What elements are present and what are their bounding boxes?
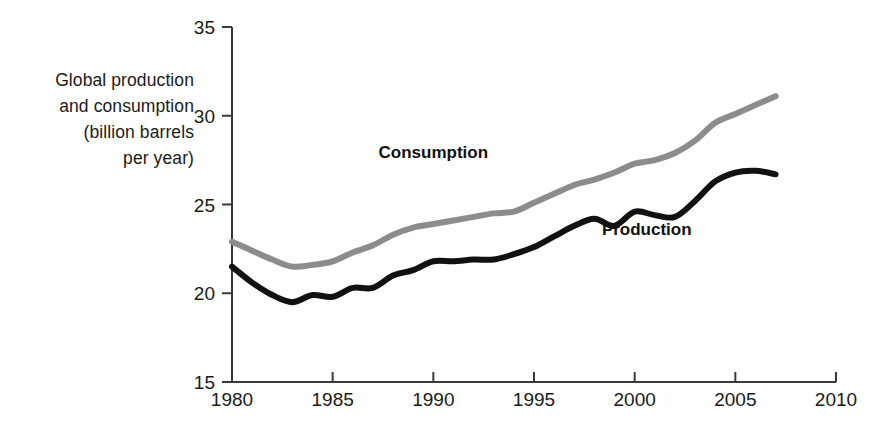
x-axis: 1980198519901995200020052010 — [211, 372, 857, 410]
y-axis-tick-labels: 1520253035 — [194, 17, 215, 393]
x-tick-label-2000: 2000 — [614, 389, 656, 410]
y-tick-label-35: 35 — [194, 17, 215, 38]
chart-page: Global production and consumption (billi… — [0, 0, 877, 432]
y-axis-ticks — [222, 27, 232, 382]
x-axis-tick-labels: 1980198519901995200020052010 — [211, 389, 857, 410]
x-tick-label-1980: 1980 — [211, 389, 253, 410]
data-series-group — [232, 96, 776, 302]
x-tick-label-2005: 2005 — [714, 389, 756, 410]
y-tick-label-30: 30 — [194, 106, 215, 127]
series-line-consumption — [232, 96, 776, 267]
line-chart: 1520253035 1980198519901995200020052010 … — [0, 0, 877, 432]
y-axis: 1520253035 — [194, 17, 232, 393]
x-tick-label-1990: 1990 — [412, 389, 454, 410]
y-tick-label-20: 20 — [194, 283, 215, 304]
x-tick-label-1985: 1985 — [312, 389, 354, 410]
x-tick-label-1995: 1995 — [513, 389, 555, 410]
x-axis-ticks — [333, 372, 836, 382]
series-label-consumption: Consumption — [379, 143, 489, 162]
series-label-production: Production — [602, 220, 692, 239]
y-tick-label-25: 25 — [194, 195, 215, 216]
series-line-production — [232, 171, 776, 302]
x-tick-label-2010: 2010 — [815, 389, 857, 410]
